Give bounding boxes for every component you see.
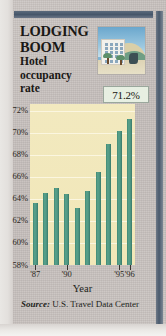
subtitle-line-1: Hotel xyxy=(20,55,96,69)
palm-fronds-icon xyxy=(116,55,125,60)
right-decorative-strip xyxy=(156,11,163,324)
window-icon xyxy=(110,47,113,50)
x-axis: '87'90'95'96 xyxy=(30,265,135,279)
source-label: Source: xyxy=(21,299,50,309)
y-tick-label: 58% xyxy=(12,261,28,270)
chart-bar xyxy=(64,194,69,265)
subtitle-line-2: occupancy xyxy=(20,69,96,83)
window-icon xyxy=(115,60,118,63)
lodging-boom-infographic: LODGING BOOM Hotel occupancy rate 71.2% … xyxy=(0,0,166,336)
foliage-icon xyxy=(129,53,138,64)
bar-chart-plot-area xyxy=(30,104,135,265)
x-tick-label: '87 xyxy=(30,270,40,279)
callout-value: 71.2% xyxy=(112,89,139,101)
chart-bar xyxy=(75,208,80,265)
callout-box: 71.2% xyxy=(103,86,149,103)
x-tick-label: '90 xyxy=(62,270,72,279)
y-tick-label: 62% xyxy=(12,216,28,225)
page-title-line-2: BOOM xyxy=(20,40,96,56)
source-text-1: U.S. Travel xyxy=(52,299,93,309)
window-icon xyxy=(115,47,118,50)
window-icon xyxy=(120,51,123,54)
chart-bar xyxy=(33,203,38,265)
chart-bar xyxy=(85,191,90,265)
x-axis-title: Year xyxy=(30,283,135,294)
y-tick-label: 68% xyxy=(12,150,28,159)
window-icon xyxy=(120,47,123,50)
window-icon xyxy=(115,43,118,46)
y-tick-label: 64% xyxy=(12,194,28,203)
hotel-resort-illustration xyxy=(97,26,146,75)
chart-bar xyxy=(117,131,122,266)
y-tick-label: 72% xyxy=(12,106,28,115)
top-decorative-rule xyxy=(14,11,153,18)
y-tick-label: 60% xyxy=(12,238,28,247)
header: LODGING BOOM Hotel occupancy rate xyxy=(20,24,96,96)
window-icon xyxy=(120,43,123,46)
palm-fronds-icon xyxy=(103,53,112,58)
y-tick-label: 66% xyxy=(12,172,28,181)
window-icon xyxy=(110,60,113,63)
window-icon xyxy=(115,51,118,54)
window-icon xyxy=(105,43,108,46)
gridline xyxy=(30,111,135,112)
chart-bar xyxy=(43,193,48,265)
window-icon xyxy=(110,43,113,46)
page-title-line-1: LODGING xyxy=(20,24,96,40)
card-bottom-margin xyxy=(0,324,166,336)
x-tick-label: '95 xyxy=(114,270,124,279)
source-text-2: Data Center xyxy=(96,299,139,309)
y-tick-label: 70% xyxy=(12,128,28,137)
subtitle-line-3: rate xyxy=(20,82,96,96)
chart-bar xyxy=(54,188,59,265)
chart-bar xyxy=(96,172,101,265)
y-axis: 72%70%68%66%64%62%60%58% xyxy=(2,104,29,265)
x-tick-label: '96 xyxy=(125,270,135,279)
source-note: Source: U.S. Travel Data Center xyxy=(21,299,151,310)
window-icon xyxy=(105,47,108,50)
chart-bar xyxy=(127,119,132,265)
chart-bar xyxy=(106,144,111,265)
